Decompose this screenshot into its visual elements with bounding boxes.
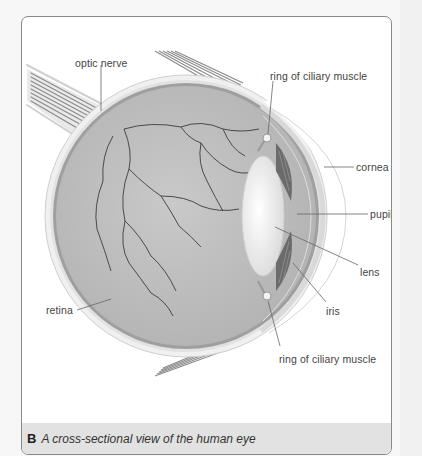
caption-text: A cross-sectional view of the human eye	[41, 432, 255, 446]
figure-caption: B A cross-sectional view of the human ey…	[22, 423, 391, 454]
lens-shape	[242, 156, 284, 276]
page-margin-strip	[400, 0, 422, 456]
label-ring-of-ciliary-muscle-bottom: ring of ciliary muscle	[279, 353, 376, 365]
label-lens: lens	[360, 266, 380, 278]
label-retina: retina	[46, 304, 73, 316]
label-optic-nerve: optic nerve	[75, 57, 127, 69]
figure-panel: optic nerve ring of ciliary muscle corne…	[21, 16, 392, 455]
label-ring-of-ciliary-muscle-top: ring of ciliary muscle	[270, 70, 367, 82]
label-cornea: cornea	[356, 161, 389, 173]
caption-letter: B	[27, 431, 36, 446]
label-iris: iris	[326, 305, 340, 317]
eye-diagram: optic nerve ring of ciliary muscle corne…	[22, 17, 392, 422]
label-pupil: pupil	[370, 208, 392, 220]
